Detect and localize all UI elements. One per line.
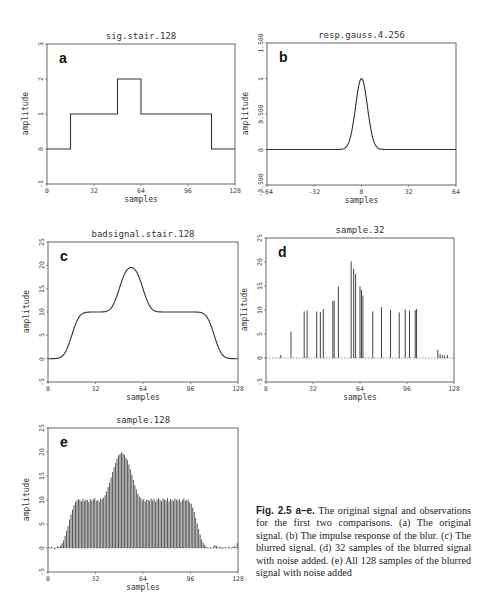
- y-tick-label: 15: [38, 464, 46, 488]
- panel-label: e: [60, 434, 68, 450]
- y-tick-label: 20: [38, 440, 46, 464]
- y-tick-label: -5: [38, 560, 46, 584]
- figure-caption: Fig. 2.5 a–e. The original signal and ob…: [256, 505, 471, 579]
- x-tick-label: 96: [187, 575, 195, 583]
- x-tick-label: 64: [139, 575, 147, 583]
- y-tick-label: 25: [38, 416, 46, 440]
- plot-frame: [48, 428, 238, 572]
- x-tick-label: 32: [92, 575, 100, 583]
- y-axis-label: amplitude: [22, 470, 31, 530]
- caption-label: Fig. 2.5 a–e.: [256, 505, 315, 516]
- x-tick-label: 0: [46, 575, 50, 583]
- x-tick-label: 128: [232, 575, 244, 583]
- y-tick-label: 5: [38, 512, 46, 536]
- x-axis-label: samples: [126, 583, 160, 592]
- y-tick-label: 0: [38, 536, 46, 560]
- y-tick-label: 10: [38, 488, 46, 512]
